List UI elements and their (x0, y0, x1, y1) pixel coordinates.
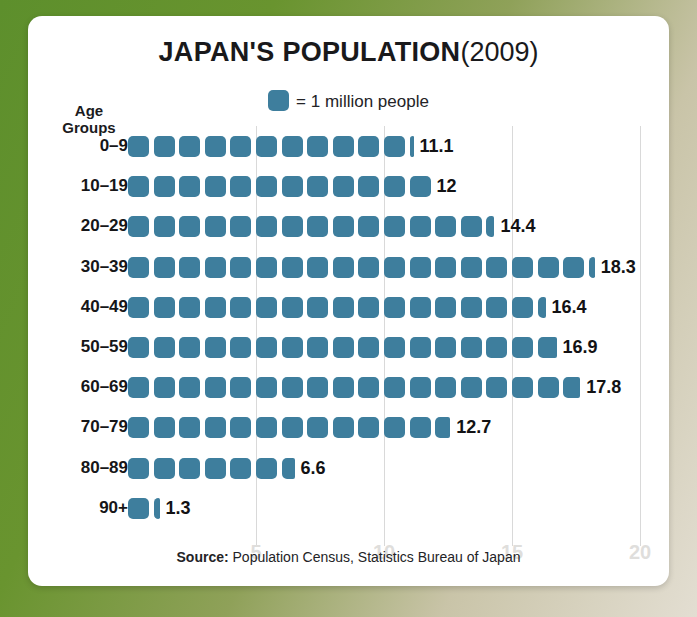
pictogram-icon (307, 377, 328, 398)
pictogram-icon (307, 176, 328, 197)
row-label-age-group: 40–49 (40, 294, 128, 320)
pictogram-icon (486, 297, 507, 318)
pictogram-icon (230, 176, 251, 197)
pictogram-icon (333, 417, 354, 438)
pictogram-icon (154, 216, 175, 237)
pictogram-icon (282, 257, 303, 278)
pictogram-icon-partial (282, 458, 295, 479)
row-label-age-group: 60–69 (40, 374, 128, 400)
pictogram-icon (307, 257, 328, 278)
pictogram-icon (282, 297, 303, 318)
pictogram-icon (154, 257, 175, 278)
pictogram-icon (205, 216, 226, 237)
pictogram-icon (230, 417, 251, 438)
pictogram-icon (230, 257, 251, 278)
row-label-age-group: 70–79 (40, 414, 128, 440)
pictogram-icon (256, 257, 277, 278)
pictogram-icon (435, 377, 456, 398)
pictogram-icon (205, 297, 226, 318)
row-label-age-group: 50–59 (40, 334, 128, 360)
pictogram-icon (179, 257, 200, 278)
pictogram-icon (230, 297, 251, 318)
pictogram-icon (256, 377, 277, 398)
pictogram-icon (205, 458, 226, 479)
pictogram-icon (435, 257, 456, 278)
row-value-label: 12.7 (456, 414, 491, 440)
pictogram-icon (486, 377, 507, 398)
pictogram-icon (461, 297, 482, 318)
row-label-age-group: 80–89 (40, 455, 128, 481)
pictogram-icon (512, 337, 533, 358)
pictogram-icon (256, 417, 277, 438)
row-value-label: 16.9 (563, 334, 598, 360)
pictogram-icon (307, 337, 328, 358)
row-value-label: 6.6 (301, 455, 326, 481)
pictogram-icon (384, 297, 405, 318)
pictogram-icon (410, 216, 431, 237)
pictogram-icon (154, 176, 175, 197)
source-label: Source: (177, 549, 229, 565)
row-value-label: 14.4 (500, 213, 535, 239)
pictogram-icon (461, 337, 482, 358)
pictogram-row: 10–1912 (28, 173, 669, 213)
pictogram-row: 30–3918.3 (28, 254, 669, 294)
row-label-age-group: 0–9 (40, 133, 128, 159)
pictogram-icon (410, 257, 431, 278)
pictogram-icon (410, 176, 431, 197)
pictogram-icon (333, 176, 354, 197)
pictogram-icon (282, 216, 303, 237)
pictogram-icon (230, 458, 251, 479)
pictogram-icon (563, 257, 584, 278)
pictogram-icon (128, 417, 149, 438)
pictogram-icon (333, 216, 354, 237)
pictogram-icon (512, 257, 533, 278)
pictogram-icon (230, 337, 251, 358)
pictogram-icon (128, 458, 149, 479)
pictogram-icon (384, 417, 405, 438)
pictogram-row: 40–4916.4 (28, 294, 669, 334)
pictogram-icon-partial (538, 337, 557, 358)
pictogram-icon (461, 377, 482, 398)
pictogram-icon (410, 377, 431, 398)
pictogram-icon (358, 417, 379, 438)
pictogram-icon-partial (563, 377, 580, 398)
pictogram-icon (435, 337, 456, 358)
pictogram-row: 20–2914.4 (28, 213, 669, 253)
pictogram-row: 50–5916.9 (28, 334, 669, 374)
pictogram-icon-partial (410, 136, 414, 157)
pictogram-icon (256, 176, 277, 197)
pictogram-icon (230, 377, 251, 398)
pictogram-icon (128, 498, 149, 519)
pictogram-icon (307, 136, 328, 157)
pictogram-icon (486, 257, 507, 278)
pictogram-icon (461, 216, 482, 237)
pictogram-icon (282, 417, 303, 438)
pictogram-icon (256, 458, 277, 479)
pictogram-icon (333, 136, 354, 157)
pictogram-icon (154, 377, 175, 398)
pictogram-icon (435, 216, 456, 237)
pictogram-icon (154, 417, 175, 438)
row-label-age-group: 10–19 (40, 173, 128, 199)
pictogram-icon (256, 216, 277, 237)
pictogram-icon (333, 257, 354, 278)
pictogram-icon (128, 136, 149, 157)
pictogram-icon (154, 337, 175, 358)
pictogram-icon (410, 297, 431, 318)
row-value-label: 11.1 (420, 133, 454, 159)
pictogram-icon (128, 257, 149, 278)
pictogram-icon (205, 417, 226, 438)
pictogram-icon (358, 257, 379, 278)
pictogram-icon (384, 136, 405, 157)
pictogram-icon (205, 377, 226, 398)
source-text: Population Census, Statistics Bureau of … (229, 549, 521, 565)
pictogram-icon (512, 377, 533, 398)
pictogram-icon (333, 337, 354, 358)
pictogram-icon (205, 257, 226, 278)
pictogram-icon (128, 176, 149, 197)
pictogram-row: 80–896.6 (28, 455, 669, 495)
pictogram-icon (358, 216, 379, 237)
pictogram-icon (179, 176, 200, 197)
row-label-age-group: 90+ (40, 495, 128, 521)
row-value-label: 12 (437, 173, 457, 199)
